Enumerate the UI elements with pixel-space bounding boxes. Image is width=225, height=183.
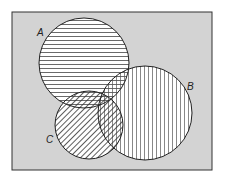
venn-diagram: A B C: [0, 0, 225, 183]
set-b-label: B: [187, 81, 194, 92]
set-a-label: A: [36, 27, 44, 38]
set-c-label: C: [46, 134, 54, 145]
